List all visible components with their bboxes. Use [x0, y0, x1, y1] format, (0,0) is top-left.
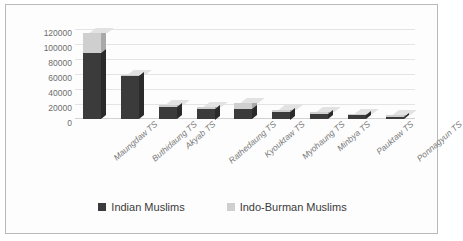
- x-axis-tick-label: Pauktaw TS: [374, 119, 415, 157]
- bar-segment: [234, 109, 252, 119]
- bar-face-top: [241, 98, 265, 103]
- y-axis-tick-label: 0: [67, 119, 72, 127]
- bar-face-front: [234, 103, 252, 110]
- bar-face-front: [197, 109, 215, 120]
- bar-face-top: [316, 107, 340, 112]
- bar-face-top: [203, 102, 227, 107]
- bar-stack: [121, 75, 139, 119]
- bar-segment: [272, 112, 290, 120]
- legend-swatch-icon: [227, 203, 235, 211]
- bar-stack: [159, 105, 177, 119]
- bar-face-front: [234, 109, 252, 119]
- bar-segment: [159, 107, 177, 119]
- legend-label: Indo-Burman Muslims: [240, 201, 347, 213]
- chart-legend: Indian MuslimsIndo-Burman Muslims: [6, 201, 439, 213]
- gridline: [75, 29, 415, 30]
- gridline: [75, 44, 415, 45]
- bar-segment: [121, 76, 139, 119]
- plot-area: [75, 29, 415, 119]
- y-axis-tick-label: 40000: [48, 89, 72, 97]
- bar-face-front: [272, 112, 290, 120]
- bar-face-top: [279, 105, 303, 110]
- bar-face-front: [159, 107, 177, 119]
- bar-face-side: [177, 103, 182, 119]
- bar-segment: [197, 109, 215, 120]
- bar-face-top: [90, 28, 114, 33]
- y-axis: 020000400006000080000100000120000: [22, 23, 72, 123]
- bar-face-top: [392, 110, 416, 115]
- bar-face-front: [83, 53, 101, 119]
- legend-item[interactable]: Indo-Burman Muslims: [227, 201, 347, 213]
- y-axis-tick-label: 120000: [44, 29, 72, 37]
- bar-stack: [310, 112, 328, 119]
- x-axis-tick-label: Ponnagyun TS: [414, 119, 463, 163]
- y-axis-tick-label: 60000: [48, 74, 72, 82]
- bar-segment: [234, 103, 252, 110]
- bar-stack: [234, 103, 252, 120]
- legend-swatch-icon: [98, 203, 106, 211]
- bar-face-front: [83, 33, 101, 53]
- bar-stack: [83, 33, 101, 119]
- bar-face-front: [121, 76, 139, 119]
- x-axis: Maungdaw TSButhidaung TSAkyab TSRathedau…: [75, 119, 425, 189]
- x-axis-tick-label: Rathedaung TS: [226, 119, 278, 166]
- bar-face-side: [101, 49, 106, 119]
- bar-segment: [83, 33, 101, 53]
- gridline: [75, 59, 415, 60]
- chart-frame: 020000400006000080000100000120000 Maungd…: [5, 4, 438, 234]
- bar-stack: [272, 110, 290, 119]
- legend-label: Indian Muslims: [111, 201, 184, 213]
- bar-stack: [197, 107, 215, 119]
- legend-item[interactable]: Indian Muslims: [98, 201, 184, 213]
- bar-face-side: [139, 72, 144, 119]
- bar-segment: [83, 53, 101, 119]
- y-axis-tick-label: 100000: [44, 44, 72, 52]
- bar-face-side: [252, 105, 257, 119]
- y-axis-tick-label: 20000: [48, 104, 72, 112]
- y-axis-tick-label: 80000: [48, 59, 72, 67]
